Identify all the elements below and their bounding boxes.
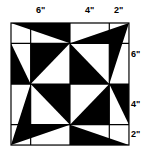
quilt-block-diagram [0,0,149,159]
dimension-label-right-6: 6" [131,50,140,59]
dimension-label-top-2: 2" [114,6,123,15]
dimension-label-top-4: 4" [85,6,94,15]
dimension-label-top-6: 6" [36,6,45,15]
dimension-label-right-4: 4" [131,100,140,109]
dimension-label-right-2: 2" [131,130,140,139]
